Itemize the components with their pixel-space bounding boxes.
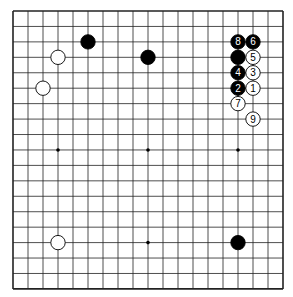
- star-point: [56, 148, 60, 152]
- move-number: 4: [235, 67, 241, 78]
- move-number: 3: [250, 67, 256, 78]
- move-number: 1: [250, 83, 256, 94]
- move-number: 6: [250, 36, 256, 47]
- white-stone: [51, 235, 65, 249]
- black-stone: [231, 50, 245, 64]
- black-stone: [81, 35, 95, 49]
- move-number: 2: [235, 83, 241, 94]
- move-number: 5: [250, 52, 256, 63]
- move-number: 9: [250, 114, 256, 125]
- go-board: 123456789: [0, 0, 293, 297]
- move-number: 8: [235, 36, 241, 47]
- star-point: [146, 241, 150, 245]
- white-stone: [36, 81, 50, 95]
- star-point: [146, 148, 150, 152]
- star-point: [236, 148, 240, 152]
- black-stone: [231, 235, 245, 249]
- black-stone: [141, 50, 155, 64]
- move-number: 7: [235, 98, 241, 109]
- white-stone: [51, 50, 65, 64]
